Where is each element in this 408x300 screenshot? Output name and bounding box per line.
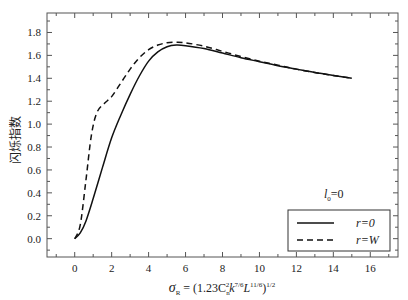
x-axis-label: σR = (1.23Cn2k7/6L11/6)1/2 (169, 280, 276, 297)
y-tick-label: 1.4 (27, 72, 41, 84)
y-tick-label: 0.8 (27, 141, 41, 153)
x-tick-label: 10 (254, 262, 266, 274)
x-tick-label: 12 (291, 262, 302, 274)
x-tick-label: 2 (109, 262, 115, 274)
x-tick-label: 8 (220, 262, 226, 274)
y-tick-label: 1.6 (27, 49, 41, 61)
y-tick-label: 0.0 (27, 233, 41, 245)
y-tick-label: 0.4 (27, 187, 41, 199)
y-tick-label: 1.0 (27, 118, 41, 130)
x-tick-label: 16 (365, 262, 377, 274)
annotation-l0: l0=0 (324, 187, 344, 203)
y-tick-label: 1.2 (27, 95, 41, 107)
x-tick-label: 0 (72, 262, 78, 274)
y-tick-label: 0.2 (27, 210, 41, 222)
x-tick-label: 4 (146, 262, 152, 274)
y-tick-label: 0.6 (27, 164, 41, 176)
data-series (75, 42, 352, 238)
legend-label-r0: r=0 (356, 216, 375, 230)
x-tick-label: 14 (328, 262, 340, 274)
legend: r=0 r=W (288, 210, 390, 251)
y-tick-label: 1.8 (27, 26, 41, 38)
x-tick-label: 6 (183, 262, 189, 274)
y-axis-label: 闪烁指数 (8, 116, 23, 164)
line-chart: 02468101214160.00.20.40.60.81.01.21.41.6… (0, 0, 408, 300)
legend-label-rW: r=W (356, 233, 380, 247)
